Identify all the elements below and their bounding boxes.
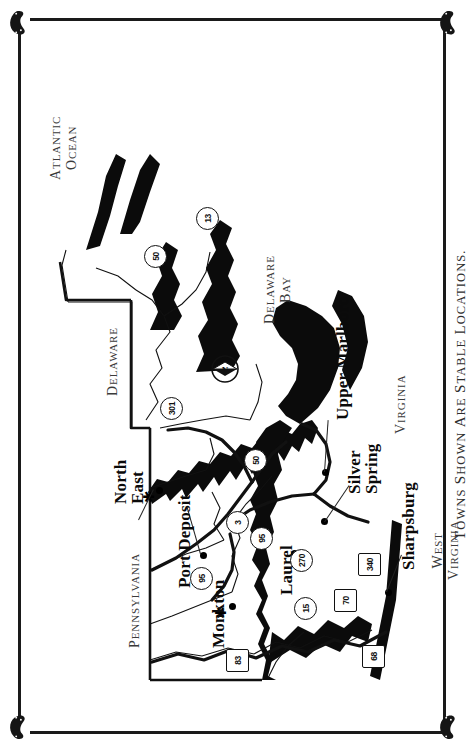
region-label-west-virginia: WEST VIRGINIA — [430, 521, 461, 580]
map-caption: Towns Shown Are Stable Locations. — [452, 210, 469, 540]
town-marker-port-deposit — [200, 552, 207, 559]
town-marker-monkton — [229, 603, 236, 610]
town-label-silver-spring: Silver Spring — [346, 444, 380, 494]
frame-border-right — [443, 30, 446, 720]
horseshoe-icon — [436, 710, 470, 744]
compass-rose-icon: N — [210, 354, 240, 384]
highway-shield-301[interactable]: 301 — [160, 397, 183, 420]
region-label-atlantic-ocean: ATLANTIC OCEAN — [48, 116, 79, 180]
frame-border-top — [30, 18, 446, 21]
svg-text:N: N — [222, 365, 229, 375]
region-label-delaware-bay: DELAWARE BAY — [262, 255, 293, 324]
town-label-north-east: North East — [112, 460, 146, 504]
region-label-delaware-rest: ELAWARE — [107, 327, 119, 385]
highway-shield-50-central[interactable]: 50 — [244, 449, 267, 472]
region-label-virginia: VIRGINIA — [394, 375, 408, 434]
town-label-silver-spring-line2: Spring — [363, 444, 380, 494]
region-label-pennsylvania-rest: ENNSYLVANIA — [129, 553, 141, 639]
horseshoe-icon — [436, 6, 470, 40]
town-label-upper-marlboro: Upper Marlboro — [334, 296, 351, 420]
highway-shield-95-north[interactable]: 95 — [190, 567, 213, 590]
map-page: Towns Shown Are Stable Locations. — [0, 0, 476, 750]
map-canvas: ✱ ✱ Port Deposit Monkton North East Laur… — [0, 30, 416, 720]
region-label-delaware-bay-line2: BAY — [278, 255, 294, 324]
region-label-delaware: DELAWARE — [106, 327, 120, 396]
highway-shield-270[interactable]: 270 — [290, 549, 313, 572]
region-label-pennsylvania: PENNSYLVANIA — [128, 553, 142, 648]
frame-border-bottom — [30, 731, 446, 734]
region-label-west-virginia-line1: WEST — [430, 521, 446, 580]
highway-shield-70[interactable]: 70 — [334, 589, 357, 612]
town-label-monkton: Monkton — [210, 580, 227, 648]
town-marker-upper-marlboro — [322, 469, 329, 476]
region-label-delaware-bay-line1: DELAWARE — [262, 255, 278, 324]
region-label-west-virginia-line2: VIRGINIA — [446, 521, 462, 580]
highway-shield-13[interactable]: 13 — [196, 207, 219, 230]
town-label-silver-spring-line1: Silver — [346, 444, 363, 494]
town-label-north-east-line2: East — [129, 460, 146, 504]
town-label-sharpsburg: Sharpsburg — [400, 482, 417, 570]
highway-shield-3[interactable]: 3 — [226, 511, 249, 534]
highway-shield-83[interactable]: 83 — [226, 649, 249, 672]
region-label-atlantic-ocean-line2: OCEAN — [64, 116, 80, 180]
highway-shield-95-south[interactable]: 95 — [250, 527, 273, 550]
region-label-virginia-rest: IRGINIA — [395, 375, 407, 423]
highway-shield-68-east[interactable]: 68 — [362, 645, 385, 668]
highway-shield-15[interactable]: 15 — [294, 597, 317, 620]
region-label-atlantic-ocean-line1: ATLANTIC — [48, 116, 64, 180]
town-label-north-east-line1: North — [112, 460, 129, 504]
highway-shield-50-east[interactable]: 50 — [144, 245, 167, 268]
highway-shield-340[interactable]: 340 — [358, 553, 381, 576]
